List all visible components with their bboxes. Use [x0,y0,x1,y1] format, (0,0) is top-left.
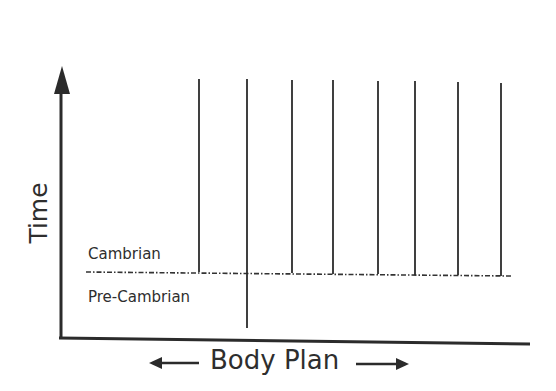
cambrian-label: Cambrian [88,245,161,263]
body-plan-left-arrow-icon [149,357,199,369]
body-plan-right-arrow-icon [356,358,409,370]
y-axis-arrowhead-icon [54,66,70,94]
x-axis-label: Body Plan [210,345,339,375]
y-axis-label: Time [24,182,53,243]
cambrian-boundary-line [86,272,511,276]
pre-cambrian-label: Pre-Cambrian [88,288,190,306]
evolution-diagram [0,0,556,391]
lineage-lines [199,79,501,328]
x-axis [59,338,530,344]
